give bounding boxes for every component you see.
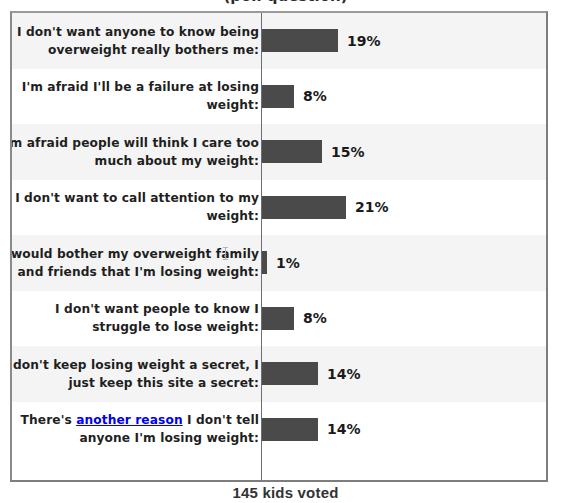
- row-label-line: anyone I'm losing weight:: [79, 429, 259, 447]
- row-label-line: It would bother my overweight family: [10, 245, 259, 263]
- row-label-line: There's another reason I don't tell: [21, 411, 259, 429]
- table-row: I'm afraid I'll be a failure at losing w…: [12, 69, 546, 125]
- bar: [262, 362, 318, 385]
- bar-area: 8%: [262, 69, 546, 125]
- row-label-line: I'm afraid I'll be a failure at losing: [22, 78, 259, 96]
- row-label-line: struggle to lose weight:: [92, 318, 259, 336]
- poll-title-clipped: (poll question): [0, 0, 571, 11]
- row-label-line: weight:: [206, 207, 259, 225]
- row-label: I'm afraid I'll be a failure at losing w…: [12, 69, 260, 125]
- bar-value-label: 1%: [276, 255, 300, 271]
- table-row: I don't want anyone to know being overwe…: [12, 13, 546, 69]
- chart-frame: I don't want anyone to know being overwe…: [10, 11, 548, 482]
- table-row: I'm afraid people will think I care too …: [12, 124, 546, 180]
- row-label-line: weight:: [206, 96, 259, 114]
- row-label-line: and friends that I'm losing weight:: [18, 263, 259, 281]
- bar-value-label: 14%: [327, 421, 361, 437]
- bar: [262, 140, 322, 163]
- another-reason-link[interactable]: another reason: [76, 413, 183, 427]
- poll-results-chart: (poll question) I don't want anyone to k…: [0, 0, 571, 503]
- row-label-line: I don't want anyone to know being: [17, 23, 259, 41]
- row-label: I don't want anyone to know being overwe…: [12, 13, 260, 69]
- row-label: I don't want to call attention to my wei…: [12, 180, 260, 236]
- bar: [262, 418, 318, 441]
- row-label-line: I don't want people to know I: [55, 300, 259, 318]
- table-row: It would bother my overweight family and…: [12, 235, 546, 291]
- bar-value-label: 15%: [331, 144, 365, 160]
- bar-area: 19%: [262, 13, 546, 69]
- bar-area: 1%: [262, 235, 546, 291]
- bar-value-label: 8%: [303, 88, 327, 104]
- table-row: There's another reason I don't tell anyo…: [12, 402, 546, 458]
- bar-area: 21%: [262, 180, 546, 236]
- table-row: I don't want to call attention to my wei…: [12, 180, 546, 236]
- bar: [262, 85, 294, 108]
- row-label-prefix: There's: [21, 413, 77, 427]
- bar: [262, 196, 346, 219]
- total-votes-label: 145 kids voted: [0, 484, 571, 501]
- bar: [262, 251, 267, 274]
- row-label: There's another reason I don't tell anyo…: [12, 402, 260, 458]
- row-label: I don't want people to know I struggle t…: [12, 291, 260, 347]
- row-label-line: just keep this site a secret:: [69, 374, 260, 392]
- table-row: I don't want people to know I struggle t…: [12, 291, 546, 347]
- bar-value-label: 19%: [347, 33, 381, 49]
- bar: [262, 307, 294, 330]
- bar-area: 14%: [262, 346, 546, 402]
- bar-area: 8%: [262, 291, 546, 347]
- chart-rows: I don't want anyone to know being overwe…: [12, 13, 546, 480]
- row-label-line: I'm afraid people will think I care too: [10, 134, 259, 152]
- poll-title-text: (poll question): [0, 0, 571, 5]
- bar-value-label: 14%: [327, 366, 361, 382]
- row-label-suffix: I don't tell: [183, 413, 259, 427]
- value-axis-line: [261, 13, 262, 480]
- bar-area: 14%: [262, 402, 546, 458]
- bar: [262, 29, 338, 52]
- table-row: I don't keep losing weight a secret, I j…: [12, 346, 546, 402]
- row-label: I don't keep losing weight a secret, I j…: [12, 346, 260, 402]
- row-label-line: much about my weight:: [95, 152, 259, 170]
- row-label-line: I don't want to call attention to my: [15, 189, 259, 207]
- row-label: I'm afraid people will think I care too …: [12, 124, 260, 180]
- row-label: It would bother my overweight family and…: [12, 235, 260, 291]
- bar-value-label: 8%: [303, 310, 327, 326]
- bar-area: 15%: [262, 124, 546, 180]
- row-label-line: overweight really bothers me:: [48, 41, 259, 59]
- bar-value-label: 21%: [355, 199, 389, 215]
- row-label-line: I don't keep losing weight a secret, I: [10, 356, 259, 374]
